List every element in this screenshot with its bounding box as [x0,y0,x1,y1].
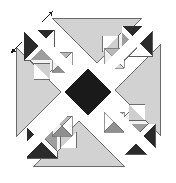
motif-tl3 [34,64,50,80]
recursive-pinwheel-figure [0,0,176,183]
motif-br3 [129,105,145,121]
figure-root: Recursive pinwheel tiling [0,0,176,183]
